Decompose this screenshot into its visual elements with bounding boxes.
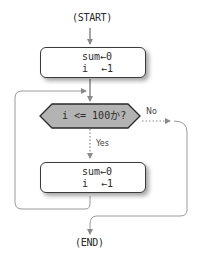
yes-label: Yes (96, 138, 109, 150)
process-box: sum←0 i ←1 (40, 162, 146, 193)
decision-condition: i <= 100か? (62, 110, 126, 122)
init-i-assign: ←1 (101, 63, 113, 75)
start-terminal: (START) (72, 12, 112, 24)
flow-connectors (0, 0, 199, 262)
init-box: sum←0 i ←1 (40, 47, 146, 78)
init-i-var: i (82, 63, 88, 75)
process-sum-assign: sum←0 (82, 166, 112, 178)
init-sum-assign: sum←0 (82, 51, 112, 63)
process-i-var: i (82, 178, 88, 190)
no-label: No (146, 106, 157, 118)
process-i-assign: ←1 (101, 178, 113, 190)
end-terminal: (END) (75, 237, 104, 249)
